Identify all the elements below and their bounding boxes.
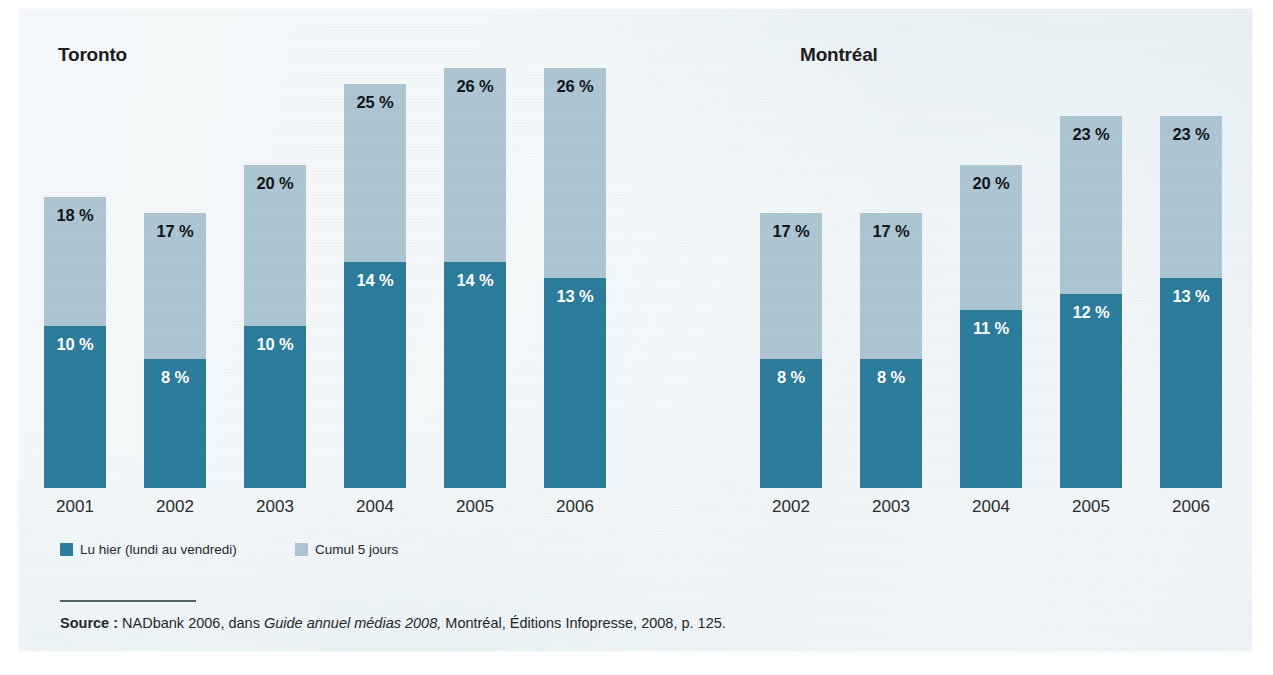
bar-value-label-cumul: 17 % — [860, 222, 922, 241]
panel-title-montreal: Montréal — [800, 44, 878, 66]
bar-value-label-lu-hier: 8 % — [144, 368, 206, 387]
legend-label-cumul: Cumul 5 jours — [315, 541, 398, 558]
x-axis-label: 2006 — [526, 497, 624, 517]
stacked-bar: 17 %8 % — [144, 213, 206, 488]
bar-value-label-lu-hier: 13 % — [1160, 287, 1222, 306]
bar-value-label-lu-hier: 11 % — [960, 319, 1022, 338]
bar-value-label-cumul: 20 % — [244, 174, 306, 193]
x-axis-label: 2002 — [126, 497, 224, 517]
stacked-bar: 17 %8 % — [860, 213, 922, 488]
x-axis-label: 2002 — [742, 497, 840, 517]
chart-panel: Toronto Montréal 18 %10 %200117 %8 %2002… — [18, 8, 1253, 652]
bar-value-label-cumul: 25 % — [344, 93, 406, 112]
bar-segment-cumul: 26 % — [444, 68, 506, 262]
bar-segment-cumul: 26 % — [544, 68, 606, 278]
bar-group: 17 %8 %2002 — [144, 68, 206, 488]
bar-segment-lu-hier: 11 % — [960, 310, 1022, 488]
bar-value-label-lu-hier: 8 % — [860, 368, 922, 387]
stacked-bar: 26 %14 % — [444, 68, 506, 488]
x-axis-label: 2004 — [326, 497, 424, 517]
bar-segment-cumul: 20 % — [960, 165, 1022, 310]
bar-group: 26 %14 %2005 — [444, 68, 506, 488]
x-axis-label: 2003 — [842, 497, 940, 517]
bar-value-label-cumul: 23 % — [1160, 125, 1222, 144]
source-title-italic: Guide annuel médias 2008, — [264, 615, 441, 631]
legend-swatch-cumul-icon — [295, 543, 308, 556]
bar-segment-cumul: 20 % — [244, 165, 306, 327]
bar-value-label-lu-hier: 14 % — [344, 271, 406, 290]
source-note: Source : NADbank 2006, dans Guide annuel… — [60, 613, 726, 633]
bar-segment-lu-hier: 13 % — [544, 278, 606, 488]
x-axis-label: 2003 — [226, 497, 324, 517]
plot-area-toronto: 18 %10 %200117 %8 %200220 %10 %200325 %1… — [44, 68, 606, 488]
bar-group: 23 %13 %2006 — [1160, 68, 1222, 488]
source-divider — [60, 600, 196, 602]
stacked-bar: 26 %13 % — [544, 68, 606, 488]
plot-area-montreal: 17 %8 %200217 %8 %200320 %11 %200423 %12… — [760, 68, 1222, 488]
source-prefix: Source : — [60, 615, 118, 631]
bar-group: 17 %8 %2002 — [760, 68, 822, 488]
x-axis-label: 2005 — [1042, 497, 1140, 517]
bar-value-label-lu-hier: 12 % — [1060, 303, 1122, 322]
bar-value-label-lu-hier: 13 % — [544, 287, 606, 306]
bar-value-label-cumul: 26 % — [444, 77, 506, 96]
stacked-bar: 20 %11 % — [960, 165, 1022, 488]
bar-segment-lu-hier: 8 % — [860, 359, 922, 488]
bar-value-label-lu-hier: 10 % — [44, 335, 106, 354]
bar-segment-cumul: 17 % — [144, 213, 206, 358]
bar-group: 23 %12 %2005 — [1060, 68, 1122, 488]
bar-segment-cumul: 25 % — [344, 84, 406, 262]
bar-value-label-lu-hier: 14 % — [444, 271, 506, 290]
legend-swatch-lu-hier-icon — [60, 543, 73, 556]
x-axis-label: 2006 — [1142, 497, 1240, 517]
stacked-bar: 25 %14 % — [344, 84, 406, 488]
bar-segment-lu-hier: 13 % — [1160, 278, 1222, 488]
source-part2: Montréal, Éditions Infopresse, 2008, p. … — [441, 615, 726, 631]
stacked-bar: 18 %10 % — [44, 197, 106, 488]
bar-group: 17 %8 %2003 — [860, 68, 922, 488]
stacked-bar: 17 %8 % — [760, 213, 822, 488]
bar-value-label-cumul: 23 % — [1060, 125, 1122, 144]
source-part1: NADbank 2006, dans — [118, 615, 264, 631]
bar-segment-cumul: 23 % — [1060, 116, 1122, 294]
bar-group: 18 %10 %2001 — [44, 68, 106, 488]
bar-segment-lu-hier: 10 % — [244, 326, 306, 488]
bar-segment-lu-hier: 8 % — [144, 359, 206, 488]
x-axis-label: 2004 — [942, 497, 1040, 517]
bar-value-label-cumul: 20 % — [960, 174, 1022, 193]
bar-segment-lu-hier: 10 % — [44, 326, 106, 488]
bar-value-label-lu-hier: 10 % — [244, 335, 306, 354]
bar-segment-cumul: 17 % — [860, 213, 922, 358]
bar-value-label-cumul: 17 % — [144, 222, 206, 241]
x-axis-label: 2001 — [26, 497, 124, 517]
bar-value-label-lu-hier: 8 % — [760, 368, 822, 387]
bar-value-label-cumul: 18 % — [44, 206, 106, 225]
bar-segment-lu-hier: 14 % — [344, 262, 406, 488]
panel-title-toronto: Toronto — [58, 44, 127, 66]
bar-group: 26 %13 %2006 — [544, 68, 606, 488]
bar-group: 25 %14 %2004 — [344, 68, 406, 488]
bar-segment-lu-hier: 8 % — [760, 359, 822, 488]
stacked-bar: 23 %12 % — [1060, 116, 1122, 488]
bar-segment-cumul: 18 % — [44, 197, 106, 326]
stacked-bar: 23 %13 % — [1160, 116, 1222, 488]
bar-value-label-cumul: 26 % — [544, 77, 606, 96]
legend-label-lu-hier: Lu hier (lundi au vendredi) — [80, 541, 237, 558]
figure-root: Toronto Montréal 18 %10 %200117 %8 %2002… — [0, 0, 1273, 675]
bar-group: 20 %11 %2004 — [960, 68, 1022, 488]
stacked-bar: 20 %10 % — [244, 165, 306, 488]
x-axis-label: 2005 — [426, 497, 524, 517]
bar-value-label-cumul: 17 % — [760, 222, 822, 241]
bar-segment-lu-hier: 12 % — [1060, 294, 1122, 488]
bar-group: 20 %10 %2003 — [244, 68, 306, 488]
bar-segment-cumul: 17 % — [760, 213, 822, 358]
bar-segment-lu-hier: 14 % — [444, 262, 506, 488]
bar-segment-cumul: 23 % — [1160, 116, 1222, 278]
